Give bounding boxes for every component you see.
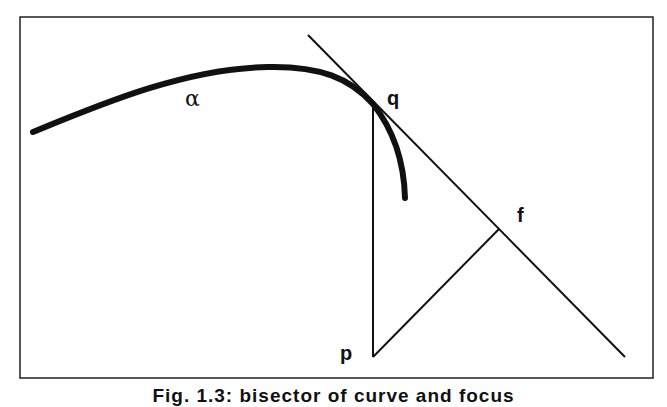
figure-frame: [20, 17, 653, 378]
label-alpha: α: [185, 88, 200, 110]
tangent-line: [308, 35, 625, 357]
label-f: f: [517, 205, 524, 225]
label-p: p: [340, 343, 352, 363]
figure-caption: Fig. 1.3: bisector of curve and focus: [0, 385, 667, 407]
curve-alpha: [33, 67, 405, 198]
segment-pf: [373, 229, 499, 357]
label-q: q: [387, 88, 399, 108]
